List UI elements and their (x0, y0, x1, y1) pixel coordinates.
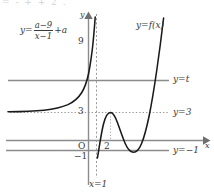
equation-tail: +a (54, 26, 67, 35)
label-y-equals-t: y=t (173, 75, 189, 84)
fraction-denominator: x−1 (34, 32, 53, 41)
y-tick-minus-1: −1 (74, 152, 87, 161)
equation-lhs: y= (20, 26, 33, 35)
y-axis-arrow (84, 12, 92, 20)
origin-label: O (78, 142, 85, 151)
equation-fraction: a−9 x−1 (34, 21, 54, 40)
label-y-equals-f-of-x: y=f(x) (136, 21, 164, 30)
x-axis-label: x (205, 142, 210, 150)
math-figure: = - + + 2 . y= a−9 x−1 +a (0, 0, 214, 196)
fraction-numerator: a−9 (34, 21, 54, 30)
y-axis-label: y (80, 11, 85, 19)
curve-f-of-x (97, 18, 163, 158)
y-tick-3: 3 (78, 107, 84, 116)
label-y-equals-3: y=3 (173, 108, 191, 117)
equation-rational-label: y= a−9 x−1 +a (20, 21, 67, 40)
x-tick-2: 2 (104, 142, 110, 151)
y-tick-9: 9 (78, 37, 84, 46)
label-x-equals-1: x=1 (89, 180, 107, 189)
label-y-equals-minus-1: y=−1 (173, 146, 199, 155)
